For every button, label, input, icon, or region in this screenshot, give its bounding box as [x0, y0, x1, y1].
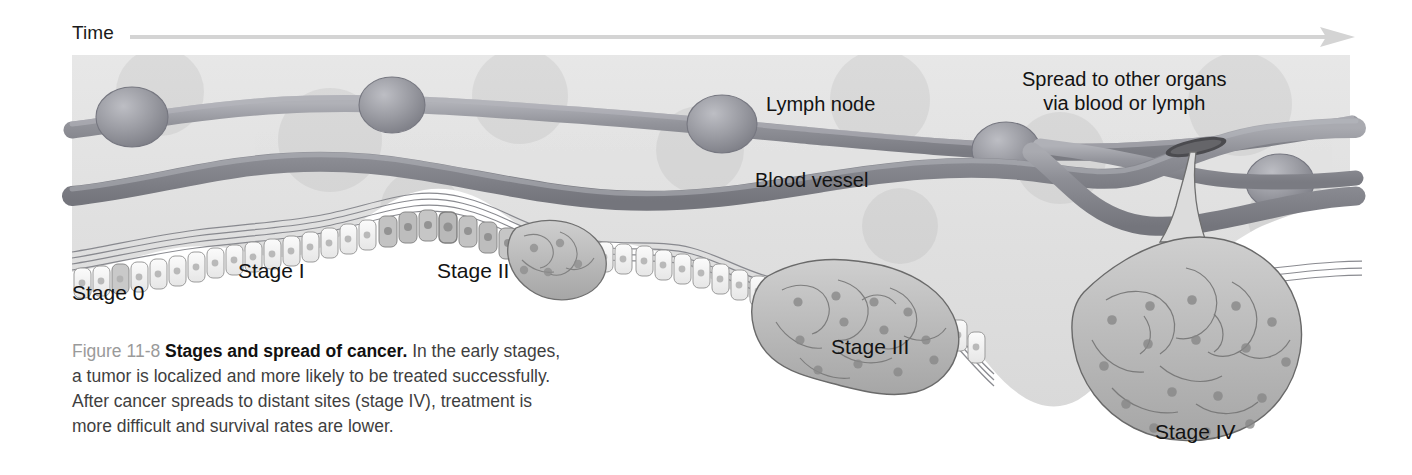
- label-stage-iii: Stage III: [831, 335, 909, 359]
- label-blood-vessel: Blood vessel: [755, 169, 868, 193]
- figure-stages-and-spread-of-cancer: Time: [0, 0, 1412, 475]
- label-stage-0: Stage 0: [72, 281, 144, 305]
- label-spread-to-other-organs: Spread to other organs via blood or lymp…: [1022, 68, 1227, 115]
- label-lymph-node: Lymph node: [766, 93, 875, 117]
- label-spread-line-1: Spread to other organs: [1022, 68, 1227, 92]
- label-stage-i: Stage I: [238, 259, 305, 283]
- figure-number: Figure 11-8: [72, 341, 160, 361]
- figure-caption: Figure 11-8 Stages and spread of cancer.…: [72, 339, 572, 438]
- label-stage-ii: Stage II: [437, 259, 509, 283]
- label-stage-iv: Stage IV: [1155, 420, 1236, 444]
- lymph-node-3: [687, 95, 757, 153]
- figure-title: Stages and spread of cancer.: [165, 341, 407, 361]
- dysplastic-cells: [379, 210, 517, 259]
- lymph-node-2: [359, 77, 425, 133]
- label-spread-line-2: via blood or lymph: [1022, 92, 1227, 116]
- lymph-node-1: [96, 87, 168, 147]
